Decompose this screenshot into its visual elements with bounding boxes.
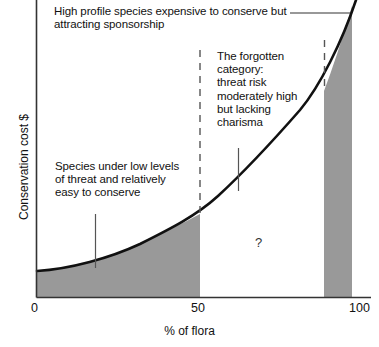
x-axis-label: % of flora — [0, 324, 379, 338]
y-axis-label: Conservation cost $ — [17, 72, 31, 262]
shaded-region-high-profile — [324, 6, 352, 297]
conservation-cost-chart: High profile species expensive to conser… — [0, 0, 379, 347]
forgotten-category-annotation: The forgotten category: threat risk mode… — [217, 50, 327, 129]
unknown-region-marker: ? — [255, 235, 262, 250]
high-profile-annotation: High profile species expensive to conser… — [54, 5, 304, 31]
x-tick-label-100: 100 — [349, 301, 370, 315]
x-tick-label-0: 0 — [31, 301, 38, 315]
low-threat-annotation: Species under low levels of threat and r… — [55, 160, 205, 200]
x-tick-label-50: 50 — [191, 301, 205, 315]
